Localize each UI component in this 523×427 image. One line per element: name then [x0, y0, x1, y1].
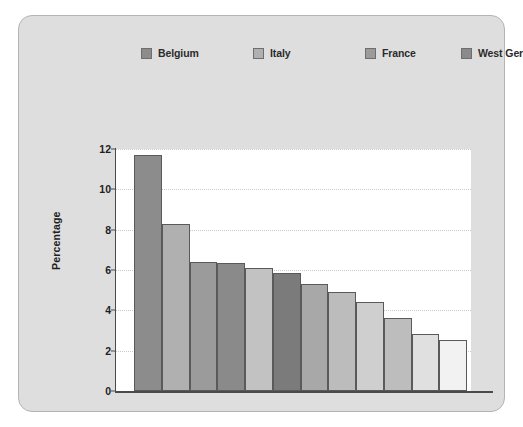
legend-swatch-icon — [141, 48, 152, 59]
bar[interactable] — [439, 340, 467, 391]
legend-item[interactable]: Belgium — [141, 44, 253, 62]
bar[interactable] — [217, 263, 245, 391]
y-tick-label: 0 — [87, 385, 111, 397]
bar[interactable] — [245, 268, 273, 391]
bar[interactable] — [134, 155, 162, 391]
bar[interactable] — [162, 224, 190, 391]
bar[interactable] — [301, 284, 329, 391]
legend-item-label: Belgium — [158, 47, 199, 59]
legend-swatch-icon — [253, 48, 264, 59]
legend-item-label: France — [382, 47, 416, 59]
chart-figure: BelgiumItalyFranceWest GermanySpainBrita… — [0, 0, 523, 427]
y-axis-ticks: 024681012 — [81, 149, 111, 391]
bar[interactable] — [273, 273, 301, 391]
bar[interactable] — [356, 302, 384, 391]
x-axis-line — [115, 391, 493, 393]
y-tick-label: 6 — [87, 264, 111, 276]
chart-legend: BelgiumItalyFranceWest GermanySpainBrita… — [141, 44, 461, 62]
plot-area — [116, 149, 471, 391]
y-tick-label: 8 — [87, 224, 111, 236]
legend-item-label: West Germany — [478, 47, 523, 59]
y-tick-label: 10 — [87, 183, 111, 195]
y-axis-title: Percentage — [50, 211, 62, 270]
y-tick-label: 4 — [87, 304, 111, 316]
y-tick-label: 2 — [87, 345, 111, 357]
legend-item-label: Italy — [270, 47, 291, 59]
legend-item[interactable]: France — [365, 44, 461, 62]
y-tick-label: 12 — [87, 143, 111, 155]
bar[interactable] — [384, 318, 412, 391]
bar-series — [134, 149, 467, 391]
legend-item[interactable]: West Germany — [461, 44, 523, 62]
legend-swatch-icon — [461, 48, 472, 59]
chart-panel: BelgiumItalyFranceWest GermanySpainBrita… — [18, 15, 505, 412]
bar[interactable] — [328, 292, 356, 391]
legend-item[interactable]: Italy — [253, 44, 365, 62]
legend-swatch-icon — [365, 48, 376, 59]
bar[interactable] — [190, 262, 218, 391]
bar[interactable] — [412, 334, 440, 391]
